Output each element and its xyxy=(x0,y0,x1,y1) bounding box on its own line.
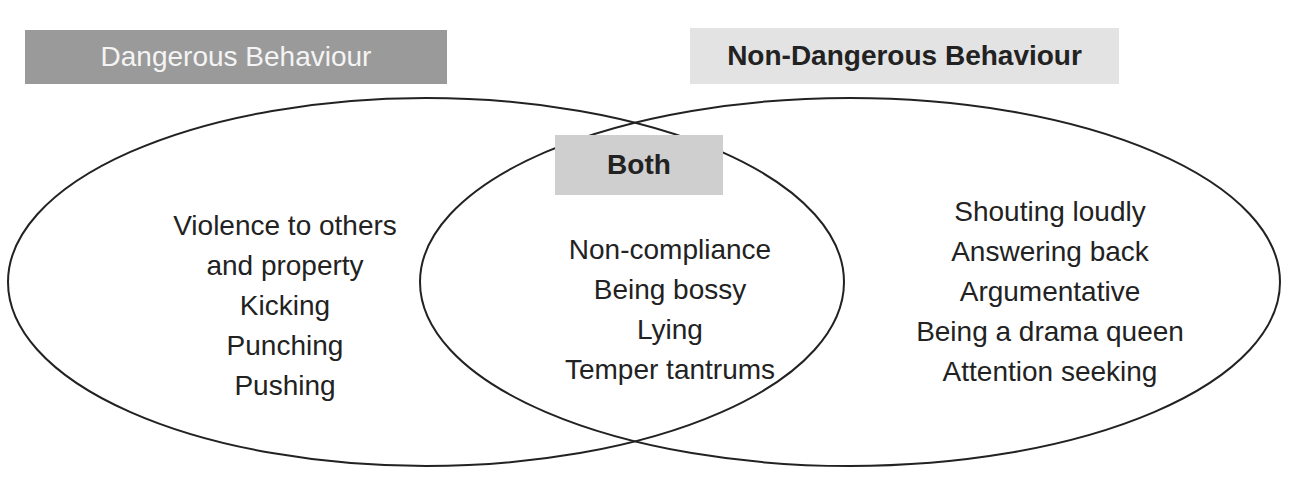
list-item: and property xyxy=(130,246,440,286)
list-item: Answering back xyxy=(860,232,1240,272)
list-item: Argumentative xyxy=(860,272,1240,312)
dangerous-behaviour-label: Dangerous Behaviour xyxy=(25,30,447,84)
non-dangerous-items-list: Shouting loudly Answering back Argumenta… xyxy=(860,192,1240,392)
dangerous-behaviour-label-text: Dangerous Behaviour xyxy=(101,41,372,73)
list-item: Shouting loudly xyxy=(860,192,1240,232)
list-item: Punching xyxy=(130,326,440,366)
non-dangerous-behaviour-label: Non-Dangerous Behaviour xyxy=(690,28,1119,84)
list-item: Pushing xyxy=(130,366,440,406)
non-dangerous-behaviour-label-text: Non-Dangerous Behaviour xyxy=(727,40,1082,72)
dangerous-items-list: Violence to others and property Kicking … xyxy=(130,206,440,406)
list-item: Lying xyxy=(505,310,835,350)
list-item: Kicking xyxy=(130,286,440,326)
both-items-list: Non-compliance Being bossy Lying Temper … xyxy=(505,230,835,390)
list-item: Non-compliance xyxy=(505,230,835,270)
list-item: Temper tantrums xyxy=(505,350,835,390)
both-label-text: Both xyxy=(607,149,671,181)
list-item: Being bossy xyxy=(505,270,835,310)
list-item: Violence to others xyxy=(130,206,440,246)
both-label: Both xyxy=(555,135,723,195)
list-item: Attention seeking xyxy=(860,352,1240,392)
list-item: Being a drama queen xyxy=(860,312,1240,352)
